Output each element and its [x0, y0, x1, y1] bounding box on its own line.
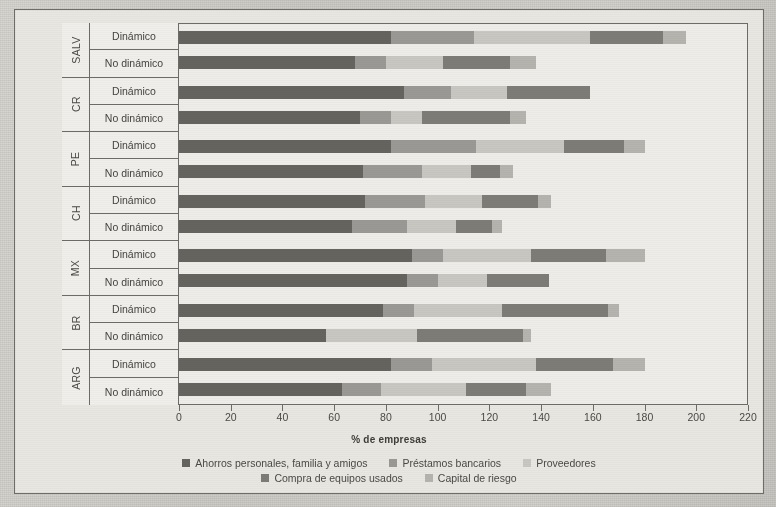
bar-segment [179, 165, 363, 178]
bar-segment [510, 56, 536, 69]
row-label: Dinámico [90, 23, 178, 50]
bars-layer [179, 23, 748, 405]
bar-segment [507, 86, 590, 99]
country-label-text: ARG [70, 366, 82, 390]
stacked-bar [179, 195, 551, 208]
country-label: BR [62, 296, 90, 350]
legend-swatch-icon [261, 474, 269, 482]
bar-segment [451, 86, 508, 99]
bar-segment [538, 195, 551, 208]
legend-label: Préstamos bancarios [402, 457, 501, 469]
bar-segment [606, 249, 645, 262]
bar-segment [407, 220, 456, 233]
row-label: No dinámico [90, 214, 178, 240]
country-label: ARG [62, 350, 90, 405]
bar-segment [391, 140, 476, 153]
x-axis-title: % de empresas [15, 434, 763, 445]
bar-segment [342, 383, 381, 396]
bar-segment [466, 383, 525, 396]
bar-segment [536, 358, 614, 371]
x-tick-label: 0 [176, 411, 182, 423]
bar-segment [179, 111, 360, 124]
bar-segment [360, 111, 391, 124]
x-tick-label: 180 [636, 411, 654, 423]
x-tick-label: 20 [225, 411, 237, 423]
bar-segment [381, 383, 466, 396]
bar-segment [474, 31, 590, 44]
bar-segment [179, 304, 383, 317]
legend-row-2: Compra de equipos usadosCapital de riesg… [15, 472, 763, 484]
bar-group-salv [179, 23, 748, 78]
legend-swatch-icon [389, 459, 397, 467]
stacked-bar [179, 329, 531, 342]
stacked-bar [179, 86, 590, 99]
category-group-pe: PEDinámicoNo dinámico [62, 132, 178, 187]
x-tick-label: 80 [380, 411, 392, 423]
bar-segment [456, 220, 492, 233]
bar-segment [510, 111, 526, 124]
category-label-column: SALVDinámicoNo dinámicoCRDinámicoNo diná… [62, 23, 179, 405]
stacked-bar [179, 249, 645, 262]
country-label: MX [62, 241, 90, 295]
row-label: Dinámico [90, 296, 178, 323]
stacked-bar [179, 31, 686, 44]
figure-panel: SALVDinámicoNo dinámicoCRDinámicoNo diná… [14, 9, 764, 494]
country-label-text: CR [69, 96, 81, 112]
bar-segment [624, 140, 645, 153]
bar-segment [412, 249, 443, 262]
bar-segment [179, 329, 326, 342]
category-group-br: BRDinámicoNo dinámico [62, 296, 178, 351]
legend-swatch-icon [425, 474, 433, 482]
legend: Ahorros personales, familia y amigosPrés… [15, 454, 763, 484]
row-label: Dinámico [90, 350, 178, 378]
bar-segment [608, 304, 618, 317]
legend-label: Ahorros personales, familia y amigos [195, 457, 367, 469]
bar-group-ch [179, 187, 748, 242]
bar-segment [414, 304, 502, 317]
x-tick-label: 40 [277, 411, 289, 423]
bar-segment [663, 31, 686, 44]
legend-item: Proveedores [523, 457, 596, 469]
legend-label: Compra de equipos usados [274, 472, 402, 484]
category-group-arg: ARGDinámicoNo dinámico [62, 350, 178, 405]
bar-segment [326, 329, 417, 342]
legend-item: Capital de riesgo [425, 472, 517, 484]
bar-segment [355, 56, 386, 69]
row-label: No dinámico [90, 159, 178, 185]
bar-segment [417, 329, 523, 342]
country-label-text: BR [70, 315, 82, 330]
bar-segment [391, 111, 422, 124]
bar-segment [476, 140, 564, 153]
x-tick-label: 160 [584, 411, 602, 423]
bar-segment [482, 195, 539, 208]
bar-segment [487, 274, 549, 287]
legend-swatch-icon [523, 459, 531, 467]
bar-segment [179, 358, 391, 371]
bar-group-pe [179, 132, 748, 187]
bar-segment [363, 165, 422, 178]
row-label-stack: DinámicoNo dinámico [90, 78, 178, 132]
row-label-stack: DinámicoNo dinámico [90, 241, 178, 295]
stacked-bar [179, 274, 549, 287]
bar-group-cr [179, 78, 748, 133]
row-label: Dinámico [90, 241, 178, 268]
row-label-stack: DinámicoNo dinámico [90, 132, 178, 186]
x-axis: 020406080100120140160180200220 [179, 405, 748, 429]
bar-group-mx [179, 241, 748, 296]
row-label: No dinámico [90, 105, 178, 131]
row-label: No dinámico [90, 269, 178, 295]
stacked-bar [179, 220, 502, 233]
legend-item: Compra de equipos usados [261, 472, 402, 484]
bar-segment [404, 86, 451, 99]
country-label: CR [62, 78, 90, 132]
legend-item: Ahorros personales, familia y amigos [182, 457, 367, 469]
stacked-bar [179, 304, 619, 317]
bar-segment [179, 140, 391, 153]
legend-row-1: Ahorros personales, familia y amigosPrés… [15, 457, 763, 469]
row-label: No dinámico [90, 50, 178, 76]
bar-segment [365, 195, 424, 208]
row-label: No dinámico [90, 323, 178, 349]
row-label: Dinámico [90, 187, 178, 214]
country-label-text: MX [69, 260, 81, 276]
bar-group-arg [179, 350, 748, 405]
